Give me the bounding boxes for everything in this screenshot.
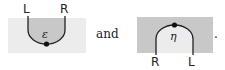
trailing-period: . — [214, 27, 218, 41]
right-bottom-label-r: R — [151, 55, 159, 69]
epsilon-node — [44, 41, 49, 46]
and-text: and — [96, 27, 119, 41]
left-top-label-l: L — [23, 2, 30, 16]
epsilon-diagram: L R ε — [8, 2, 86, 53]
eta-node — [172, 22, 177, 27]
eta-symbol: η — [170, 30, 177, 43]
epsilon-symbol: ε — [42, 28, 48, 41]
right-bottom-label-l: L — [188, 55, 195, 69]
eta-diagram: η R L — [137, 17, 213, 69]
string-diagrams: L R ε and η R L . — [0, 0, 225, 70]
left-top-label-r: R — [60, 2, 68, 16]
